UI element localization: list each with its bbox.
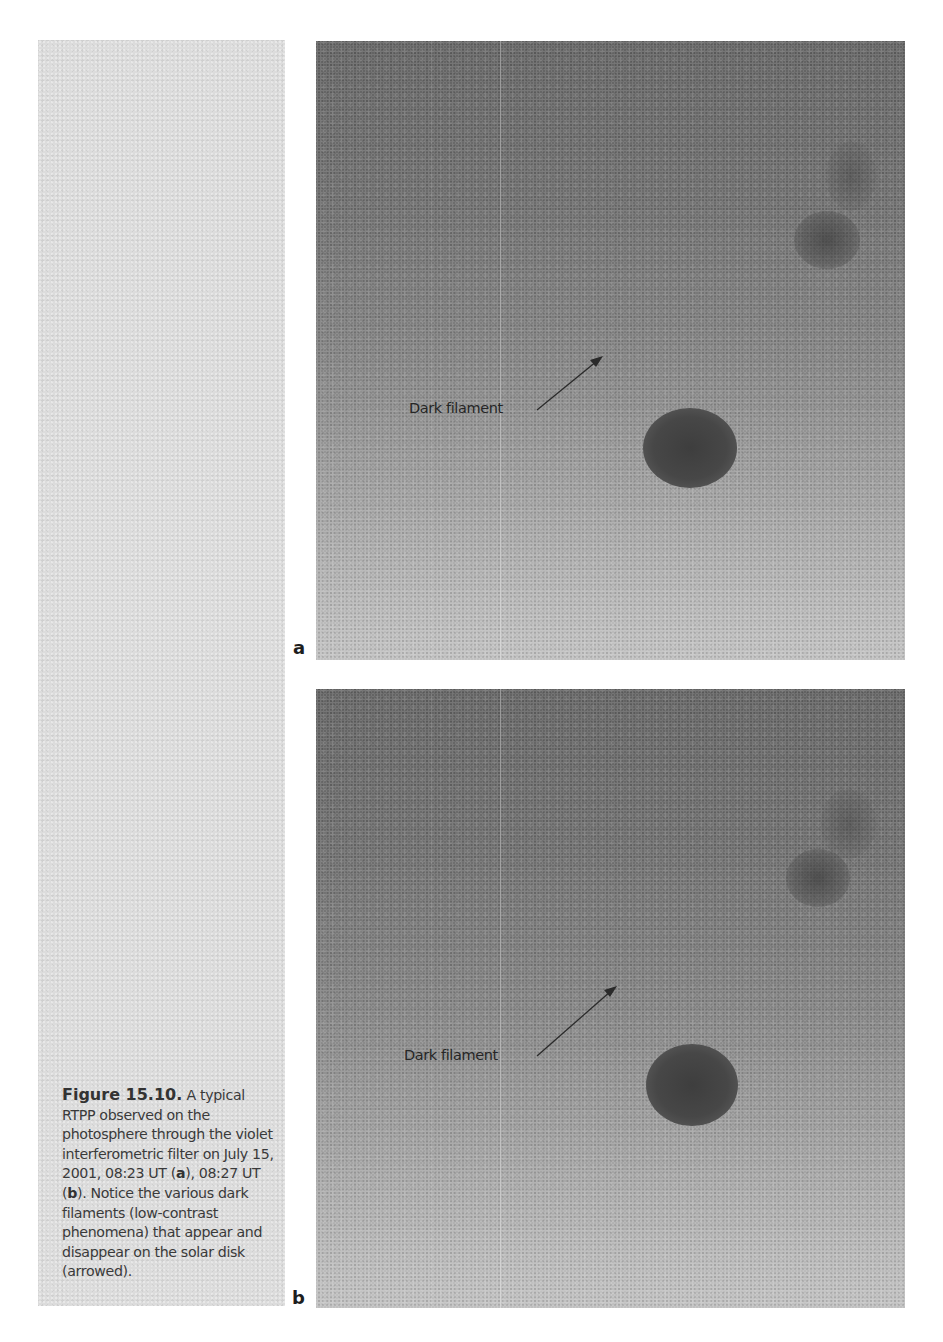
- caption-panel: Figure 15.10. A typical RTPP observed on…: [38, 40, 285, 1306]
- filament-arrow-icon: [316, 41, 905, 660]
- figure-caption: Figure 15.10. A typical RTPP observed on…: [62, 1085, 280, 1282]
- caption-tail-text: ). Notice the various dark filaments (lo…: [62, 1185, 262, 1279]
- figure-label: Figure 15.10.: [62, 1085, 182, 1104]
- caption-panel-a-ref: a: [176, 1165, 185, 1181]
- filament-arrow-icon: [316, 689, 905, 1308]
- solar-photo-a: Dark filament: [316, 41, 905, 660]
- caption-panel-b-ref: b: [67, 1185, 77, 1201]
- panel-label-a: a: [293, 637, 305, 658]
- panel-label-b: b: [292, 1287, 305, 1308]
- solar-photo-b: Dark filament: [316, 689, 905, 1308]
